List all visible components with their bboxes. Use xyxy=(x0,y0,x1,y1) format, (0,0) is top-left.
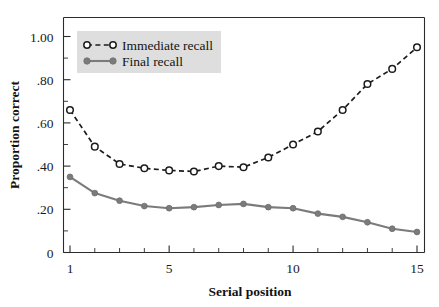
data-point-final-recall[interactable] xyxy=(241,201,247,207)
data-point-final-recall[interactable] xyxy=(191,204,197,210)
data-point-immediate-recall[interactable] xyxy=(290,141,297,148)
data-point-final-recall[interactable] xyxy=(117,198,123,204)
chart-canvas: 0.20.40.60.801.00 151015 Proportion corr… xyxy=(0,0,439,307)
y-axis-tick-labels: 0.20.40.60.801.00 xyxy=(30,30,54,261)
data-point-immediate-recall[interactable] xyxy=(414,44,421,51)
legend-marker-final-end-icon xyxy=(110,58,116,64)
data-point-immediate-recall[interactable] xyxy=(339,107,346,114)
x-tick-label: 15 xyxy=(410,261,424,276)
data-point-final-recall[interactable] xyxy=(290,205,296,211)
data-point-immediate-recall[interactable] xyxy=(91,143,98,150)
y-axis-title: Proportion correct xyxy=(7,81,22,189)
data-point-immediate-recall[interactable] xyxy=(364,81,371,88)
data-point-final-recall[interactable] xyxy=(389,226,395,232)
serial-position-chart: 0.20.40.60.801.00 151015 Proportion corr… xyxy=(0,0,439,307)
series-final-recall xyxy=(67,174,420,235)
data-point-immediate-recall[interactable] xyxy=(166,167,173,174)
y-tick-label: 1.00 xyxy=(30,30,54,45)
data-point-final-recall[interactable] xyxy=(92,190,98,196)
data-point-final-recall[interactable] xyxy=(265,204,271,210)
x-tick-label: 1 xyxy=(67,261,74,276)
legend-marker-final-start-icon xyxy=(84,58,90,64)
legend-label-final-recall: Final recall xyxy=(122,54,183,69)
data-point-final-recall[interactable] xyxy=(414,229,420,235)
data-point-immediate-recall[interactable] xyxy=(116,161,123,168)
x-tick-label: 5 xyxy=(166,261,173,276)
y-axis-ticks xyxy=(64,37,71,253)
data-point-final-recall[interactable] xyxy=(67,174,73,180)
x-axis-ticks xyxy=(70,246,417,253)
data-point-immediate-recall[interactable] xyxy=(67,107,74,114)
data-point-final-recall[interactable] xyxy=(216,202,222,208)
data-point-immediate-recall[interactable] xyxy=(315,128,322,135)
data-point-final-recall[interactable] xyxy=(365,219,371,225)
data-point-final-recall[interactable] xyxy=(141,203,147,209)
data-point-immediate-recall[interactable] xyxy=(141,165,148,172)
legend-marker-immediate-start-icon xyxy=(84,42,90,48)
legend-marker-immediate-end-icon xyxy=(110,42,116,48)
x-tick-label: 10 xyxy=(286,261,300,276)
legend: Immediate recall Final recall xyxy=(77,31,221,73)
x-axis-title: Serial position xyxy=(209,284,292,299)
data-point-immediate-recall[interactable] xyxy=(389,66,396,73)
data-point-immediate-recall[interactable] xyxy=(191,168,198,175)
data-point-final-recall[interactable] xyxy=(166,205,172,211)
data-point-final-recall[interactable] xyxy=(315,211,321,217)
data-point-final-recall[interactable] xyxy=(340,214,346,220)
data-point-immediate-recall[interactable] xyxy=(265,154,272,161)
y-tick-label: .80 xyxy=(37,73,54,88)
legend-label-immediate-recall: Immediate recall xyxy=(122,38,213,53)
x-axis-tick-labels: 151015 xyxy=(67,261,424,276)
y-tick-label: .60 xyxy=(37,116,54,131)
data-point-immediate-recall[interactable] xyxy=(240,164,247,171)
y-tick-label: 0 xyxy=(47,246,54,261)
y-tick-label: .40 xyxy=(37,159,54,174)
y-tick-label: .20 xyxy=(37,202,54,217)
data-point-immediate-recall[interactable] xyxy=(215,163,222,170)
